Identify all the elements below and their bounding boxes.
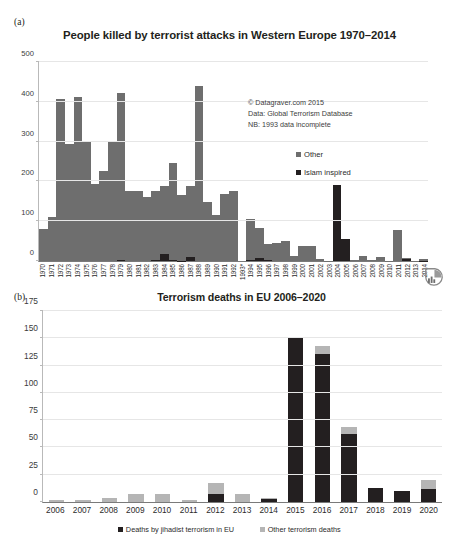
bar-segment[interactable] — [49, 500, 64, 502]
bar-stack[interactable] — [359, 256, 368, 261]
bar-segment[interactable] — [151, 260, 160, 261]
bar-segment[interactable] — [281, 241, 290, 261]
bar-stack[interactable] — [134, 191, 143, 261]
bar-segment[interactable] — [421, 489, 436, 502]
bar-segment[interactable] — [316, 259, 325, 261]
bar-group[interactable] — [411, 62, 420, 261]
bar-group[interactable] — [402, 62, 411, 261]
bar-segment[interactable] — [48, 217, 57, 261]
bar-stack[interactable] — [402, 258, 411, 261]
bar-segment[interactable] — [264, 260, 273, 261]
bar-stack[interactable] — [75, 500, 90, 502]
bar-segment[interactable] — [108, 141, 117, 261]
bar-group[interactable] — [238, 62, 247, 261]
bar-segment[interactable] — [298, 246, 307, 261]
bar-group[interactable] — [419, 62, 428, 261]
bar-segment[interactable] — [82, 142, 91, 261]
bar-stack[interactable] — [393, 230, 402, 261]
bar-segment[interactable] — [255, 258, 264, 261]
bar-group[interactable] — [220, 62, 229, 261]
bar-stack[interactable] — [195, 86, 204, 261]
bar-segment[interactable] — [290, 256, 299, 261]
bar-segment[interactable] — [402, 259, 411, 261]
bar-stack[interactable] — [151, 191, 160, 261]
bar-stack[interactable] — [350, 260, 359, 261]
bar-segment[interactable] — [333, 185, 342, 261]
bar-group[interactable] — [74, 62, 83, 261]
bar-group[interactable] — [65, 62, 74, 261]
bar-segment[interactable] — [160, 254, 169, 261]
bar-segment[interactable] — [91, 184, 100, 261]
bar-segment[interactable] — [394, 491, 409, 502]
bar-stack[interactable] — [255, 228, 264, 261]
bar-segment[interactable] — [74, 97, 83, 261]
bar-segment[interactable] — [359, 256, 368, 261]
bar-group[interactable] — [125, 62, 134, 261]
bar-stack[interactable] — [272, 243, 281, 261]
bar-stack[interactable] — [307, 246, 316, 261]
bar-segment[interactable] — [368, 488, 383, 502]
bar-stack[interactable] — [108, 141, 117, 261]
bar-segment[interactable] — [102, 498, 117, 502]
bar-segment[interactable] — [393, 230, 402, 261]
bar-segment[interactable] — [255, 228, 264, 258]
bar-stack[interactable] — [333, 185, 342, 261]
bar-stack[interactable] — [160, 186, 169, 261]
bar-stack[interactable] — [155, 494, 170, 502]
bar-stack[interactable] — [341, 427, 356, 502]
bar-group[interactable] — [108, 62, 117, 261]
bar-group[interactable] — [39, 62, 48, 261]
bar-segment[interactable] — [182, 500, 197, 502]
bar-stack[interactable] — [125, 191, 134, 261]
bar-segment[interactable] — [75, 500, 90, 502]
bar-segment[interactable] — [65, 144, 74, 261]
bar-group[interactable] — [82, 62, 91, 261]
bar-stack[interactable] — [264, 244, 273, 261]
bar-stack[interactable] — [143, 197, 152, 261]
bar-stack[interactable] — [48, 217, 57, 261]
bar-stack[interactable] — [290, 256, 299, 261]
bar-stack[interactable] — [169, 163, 178, 261]
bar-stack[interactable] — [376, 257, 385, 261]
bar-group[interactable] — [177, 62, 186, 261]
bar-segment[interactable] — [376, 257, 385, 261]
bar-group[interactable] — [203, 62, 212, 261]
bar-group[interactable] — [281, 62, 290, 261]
bar-stack[interactable] — [102, 498, 117, 502]
bar-stack[interactable] — [421, 480, 436, 502]
bar-segment[interactable] — [134, 191, 143, 261]
bar-stack[interactable] — [82, 142, 91, 261]
bar-group[interactable] — [195, 62, 204, 261]
bar-stack[interactable] — [367, 260, 376, 261]
bar-group[interactable] — [246, 62, 255, 261]
bar-segment[interactable] — [341, 434, 356, 502]
bar-stack[interactable] — [419, 259, 428, 261]
bar-stack[interactable] — [91, 184, 100, 261]
bar-group[interactable] — [186, 62, 195, 261]
bar-segment[interactable] — [341, 427, 356, 434]
bar-stack[interactable] — [39, 229, 48, 261]
bar-stack[interactable] — [281, 241, 290, 261]
bar-segment[interactable] — [212, 215, 221, 261]
bar-group[interactable] — [160, 62, 169, 261]
bar-segment[interactable] — [186, 186, 195, 257]
bar-segment[interactable] — [39, 229, 48, 261]
bar-group[interactable] — [264, 62, 273, 261]
bar-segment[interactable] — [143, 197, 152, 261]
bar-stack[interactable] — [177, 195, 186, 261]
bar-group[interactable] — [48, 62, 57, 261]
bar-stack[interactable] — [298, 246, 307, 261]
bar-segment[interactable] — [208, 483, 223, 494]
bar-segment[interactable] — [315, 346, 330, 354]
bar-stack[interactable] — [203, 202, 212, 261]
bar-stack[interactable] — [235, 494, 250, 502]
bar-group[interactable] — [99, 62, 108, 261]
bar-segment[interactable] — [246, 219, 255, 259]
bar-segment[interactable] — [264, 244, 273, 260]
bar-segment[interactable] — [307, 246, 316, 261]
bar-stack[interactable] — [316, 259, 325, 261]
bar-stack[interactable] — [99, 171, 108, 261]
bar-stack[interactable] — [65, 144, 74, 261]
bar-group[interactable] — [143, 62, 152, 261]
bar-group[interactable] — [91, 62, 100, 261]
